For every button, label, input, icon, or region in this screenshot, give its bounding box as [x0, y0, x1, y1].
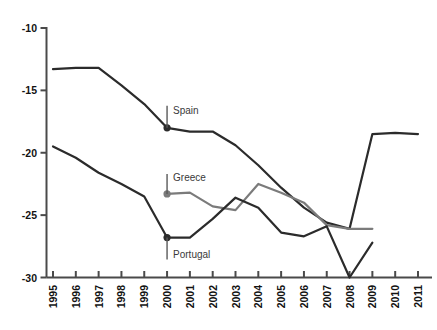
x-axis-tick-label: 1996 — [70, 285, 82, 309]
x-axis-tick-label: 2000 — [161, 285, 173, 309]
x-axis-tick-label: 2011 — [412, 285, 424, 308]
x-axis-tick-label: 1995 — [47, 285, 59, 309]
chart-svg: -10-15-20-25-30 199519961997199819992000… — [0, 0, 437, 330]
series-label-greece: Greece — [173, 172, 206, 183]
x-axis-tick-label: 2009 — [366, 285, 378, 309]
y-axis-tick-label: -25 — [22, 209, 37, 221]
x-axis-tick-labels: 1995199619971998199920002001200220032004… — [47, 285, 424, 309]
y-axis-tick-label: -15 — [22, 84, 37, 96]
x-axis-tick-label: 1999 — [138, 285, 150, 309]
x-axis-tick-label: 2010 — [389, 285, 401, 309]
y-axis-tick-label: -10 — [22, 22, 37, 34]
x-axis-tick-label: 2008 — [344, 285, 356, 309]
series-label-spain: Spain — [173, 105, 199, 116]
x-axis-tick-label: 1998 — [115, 285, 127, 309]
x-axis-tick-label: 2001 — [184, 285, 196, 309]
x-axis-tick-label: 2003 — [230, 285, 242, 309]
x-axis-tick-label: 2004 — [252, 285, 264, 309]
x-axis-tick-label: 2005 — [275, 285, 287, 309]
y-axis-tick-label: -30 — [22, 272, 37, 284]
x-axis-tick-label: 2002 — [207, 285, 219, 309]
y-axis-tick-label: -20 — [22, 147, 37, 159]
x-axis-tick-label: 1997 — [93, 285, 105, 309]
chart-background — [0, 0, 437, 330]
line-chart: -10-15-20-25-30 199519961997199819992000… — [0, 0, 437, 330]
x-axis-tick-label: 2007 — [321, 285, 333, 309]
series-label-portugal: Portugal — [173, 249, 210, 260]
x-axis-tick-label: 2006 — [298, 285, 310, 309]
